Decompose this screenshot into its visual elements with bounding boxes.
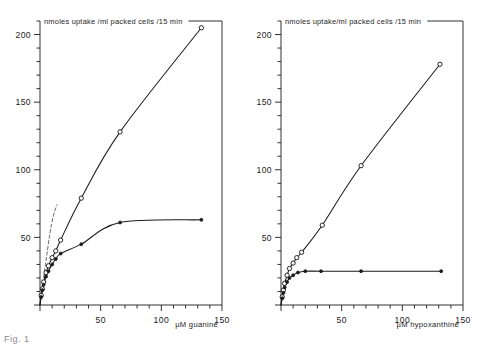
x-tick-group-guanine (40, 305, 222, 311)
chart-panel-hypoxanthine: 50100150200 50100150 nmoles uptake/ml pa… (241, 0, 483, 342)
data-layer-hypoxanthine (280, 62, 443, 305)
carrier-uptake-markers-hypoxanthine (281, 270, 443, 300)
carrier-uptake-markers-guanine (40, 218, 203, 298)
y-tick-group-guanine (34, 21, 40, 305)
x-tick-group-hypoxanthine (281, 305, 463, 311)
svg-text:200: 200 (15, 30, 31, 40)
carrier-uptake-curve-hypoxanthine (281, 271, 441, 305)
data-layer-guanine (39, 26, 203, 305)
svg-text:150: 150 (15, 97, 31, 107)
svg-text:50: 50 (336, 315, 346, 325)
svg-text:50: 50 (262, 233, 272, 243)
x-axis-label-guanine: µM guanine (175, 320, 218, 329)
x-axis-label-hypoxanthine: µM hypoxanthine (397, 320, 460, 329)
figure-caption: Fig. 1 (4, 334, 30, 344)
total-uptake-curve-hypoxanthine (281, 64, 440, 305)
total-uptake-markers-guanine (39, 26, 203, 298)
svg-text:100: 100 (256, 165, 272, 175)
axes-guanine: 50100150200 50100150 (15, 21, 229, 325)
chart-svg-hypoxanthine: 50100150200 50100150 nmoles uptake/ml pa… (241, 0, 483, 342)
chart-svg-guanine: 50100150200 50100150 nmoles uptake /ml p… (0, 0, 242, 342)
total-uptake-markers-hypoxanthine (280, 62, 442, 299)
svg-text:200: 200 (256, 30, 272, 40)
svg-text:50: 50 (95, 315, 105, 325)
y-tick-group-hypoxanthine (275, 21, 281, 305)
total-uptake-curve-guanine (40, 28, 201, 305)
y-axis-label-guanine: nmoles uptake /ml packed cells /15 min (44, 17, 183, 26)
frame-border-left-panel (189, 21, 223, 305)
svg-text:100: 100 (154, 315, 170, 325)
y-axis-label-hypoxanthine: nmoles uptake/ml packed cells /15 min (285, 17, 421, 26)
svg-text:100: 100 (15, 165, 31, 175)
frame-border-right-panel (427, 21, 463, 305)
chart-panel-guanine: 50100150200 50100150 nmoles uptake /ml p… (0, 0, 242, 342)
svg-text:150: 150 (256, 97, 272, 107)
y-tick-label-group-hypoxanthine: 50100150200 (256, 30, 272, 243)
svg-text:50: 50 (21, 233, 31, 243)
y-tick-label-group-guanine: 50100150200 (15, 30, 31, 243)
